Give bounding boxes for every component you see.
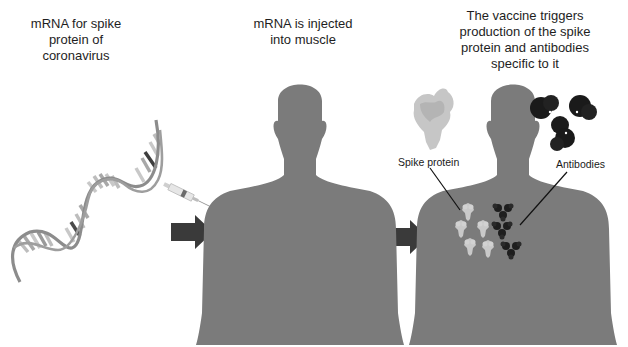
antibody-icon xyxy=(530,95,597,151)
spike-protein-label: Spike protein xyxy=(398,156,459,168)
antibodies-label: Antibodies xyxy=(556,158,605,170)
human-silhouette-icon xyxy=(196,85,404,346)
mrna-helix-icon xyxy=(13,120,162,282)
spike-protein-icon xyxy=(414,89,454,150)
diagram-canvas xyxy=(0,0,628,347)
